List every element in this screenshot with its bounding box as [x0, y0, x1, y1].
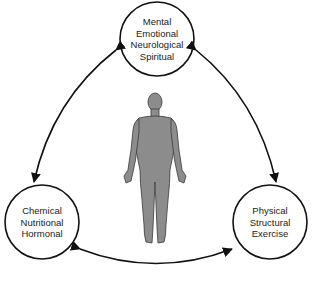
label-line: Mental — [120, 16, 194, 28]
label-line: Structural — [233, 217, 307, 229]
label-line: Physical — [233, 205, 307, 217]
node-label-chemical: Chemical Nutritional Hormonal — [5, 205, 79, 240]
arrow-mental-physical — [196, 50, 276, 182]
label-line: Chemical — [5, 205, 79, 217]
arrow-mental-chemical — [34, 50, 116, 182]
node-label-mental: Mental Emotional Neurological Spiritual — [120, 16, 194, 62]
label-line: Emotional — [120, 28, 194, 40]
node-label-physical: Physical Structural Exercise — [233, 205, 307, 240]
label-line: Spiritual — [120, 51, 194, 63]
label-line: Hormonal — [5, 228, 79, 240]
label-line: Neurological — [120, 39, 194, 51]
human-figure-icon — [124, 93, 186, 243]
arrow-chemical-physical — [80, 249, 232, 264]
label-line: Nutritional — [5, 217, 79, 229]
label-line: Exercise — [233, 228, 307, 240]
